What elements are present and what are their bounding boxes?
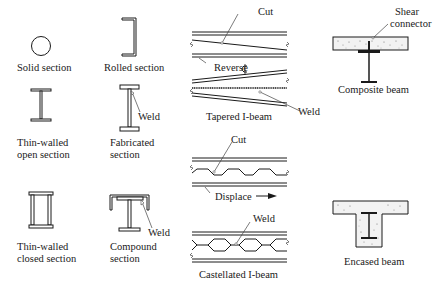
solid-section-label: Solid section — [17, 62, 72, 73]
thin-walled-closed-section-figure — [29, 192, 53, 228]
tapered-weld-label: Weld — [298, 106, 321, 117]
tapered-cut-label: Cut — [258, 6, 273, 17]
shear-connector-label-line1: Shear — [395, 6, 419, 17]
fabricated-weld-callout: Weld — [138, 111, 161, 122]
thin-walled-closed-label-line2: closed section — [17, 253, 77, 264]
castellated-displace-label: Displace — [215, 191, 252, 202]
compound-weld-callout: Weld — [148, 227, 171, 238]
compound-label-line1: Compound — [110, 241, 157, 252]
encased-beam-label: Encased beam — [344, 256, 404, 267]
fabricated-section-figure — [120, 85, 140, 131]
encased-beam-figure — [333, 201, 408, 247]
composite-beam-figure — [333, 24, 408, 83]
compound-section-figure — [110, 195, 152, 231]
structural-sections-diagram: Solid section Rolled section Thin-walled… — [0, 0, 443, 288]
thin-walled-open-section-figure — [31, 89, 51, 121]
compound-label-line2: section — [110, 253, 140, 264]
castellated-weld-label: Weld — [253, 213, 276, 224]
rolled-section-label: Rolled section — [104, 62, 165, 73]
thin-walled-closed-label-line1: Thin-walled — [17, 241, 69, 252]
thin-walled-open-label-line2: open section — [17, 149, 71, 160]
solid-section-figure — [32, 37, 51, 56]
tapered-i-beam-label: Tapered I-beam — [206, 111, 272, 122]
rolled-section-figure — [122, 18, 136, 56]
composite-beam-label: Composite beam — [338, 84, 409, 95]
tapered-reverse-label: Reverse — [214, 62, 248, 73]
shear-connector-label-line2: connector — [390, 18, 432, 29]
castellated-cut-label: Cut — [231, 134, 246, 145]
thin-walled-open-label-line1: Thin-walled — [17, 137, 69, 148]
fabricated-label-line1: Fabricated — [110, 137, 155, 148]
castellated-i-beam-figure — [190, 142, 289, 262]
fabricated-label-line2: section — [110, 149, 140, 160]
castellated-i-beam-label: Castellated I-beam — [199, 269, 278, 280]
